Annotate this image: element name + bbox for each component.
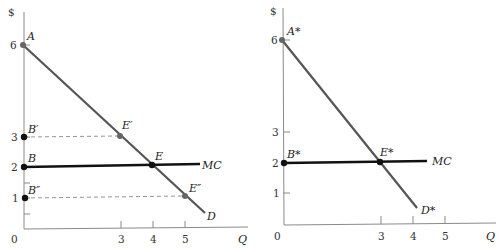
right-mc-curve — [284, 161, 427, 163]
left-demand-label: D — [206, 210, 216, 223]
left-x-tick-label-4: 4 — [150, 233, 157, 245]
right-point-a-star — [279, 37, 285, 43]
left-y-tick-label-2: 2 — [11, 161, 18, 173]
left-point-e-double-prime — [182, 193, 188, 199]
right-y-tick-label-6: 6 — [271, 34, 278, 46]
right-y-axis-label: $ — [270, 5, 277, 17]
left-point-e-label: E — [154, 150, 163, 163]
right-origin-label: 0 — [274, 230, 281, 242]
left-origin-label: 0 — [11, 233, 18, 245]
right-x-axis — [284, 223, 496, 225]
left-y-tick-label-6: 6 — [10, 39, 17, 51]
left-point-b-double-prime-label: B″ — [27, 184, 41, 197]
right-point-a-star-label: A* — [286, 25, 301, 38]
right-x-tick-label-3: 3 — [378, 230, 385, 242]
right-y-tick-label-2: 2 — [272, 157, 279, 169]
left-point-e-prime-label: E′ — [121, 119, 133, 132]
left-x-tick-label-3: 3 — [118, 233, 125, 245]
right-y-tick-label-3: 3 — [272, 126, 279, 138]
left-point-e-prime — [117, 133, 123, 139]
left-point-a-label: A — [26, 30, 35, 43]
left-demand-curve — [23, 45, 205, 213]
left-y-axis-label: $ — [8, 6, 15, 18]
right-panel: $ Q 0 6 3 2 1 3 4 5 MC D* A* B* E* — [270, 5, 496, 243]
diagram-canvas: $ Q 0 6 3 2 1 3 4 5 MC D A B′ — [0, 0, 499, 248]
left-y-tick-label-1: 1 — [12, 192, 19, 204]
left-dashed-line-price-1 — [24, 196, 184, 198]
left-dashed-line-price-3 — [24, 136, 120, 137]
left-mc-label: MC — [201, 159, 222, 172]
left-mc-curve — [24, 164, 200, 167]
left-point-b-prime — [21, 134, 27, 140]
right-demand-curve — [282, 40, 417, 208]
right-point-e-star — [377, 159, 383, 165]
left-point-e-double-prime-label: E″ — [188, 182, 202, 195]
left-point-a — [20, 42, 26, 48]
right-mc-label: MC — [431, 155, 452, 168]
right-point-b-star-label: B* — [286, 148, 301, 161]
right-x-tick-label-4: 4 — [410, 230, 417, 242]
right-x-tick-label-5: 5 — [442, 230, 449, 242]
left-x-axis — [24, 227, 248, 229]
left-point-b — [21, 164, 27, 170]
right-point-e-star-label: E* — [379, 146, 394, 159]
left-point-b-prime-label: B′ — [27, 123, 39, 136]
right-x-axis-label: Q — [486, 230, 495, 243]
right-y-tick-label-1: 1 — [273, 187, 280, 199]
left-y-tick-label-3: 3 — [11, 131, 18, 143]
left-x-tick-label-5: 5 — [182, 233, 189, 245]
left-point-b-label: B — [27, 152, 36, 165]
right-demand-label: D* — [420, 204, 436, 217]
left-x-axis-label: Q — [238, 233, 247, 246]
left-panel: $ Q 0 6 3 2 1 3 4 5 MC D A B′ — [8, 6, 248, 246]
